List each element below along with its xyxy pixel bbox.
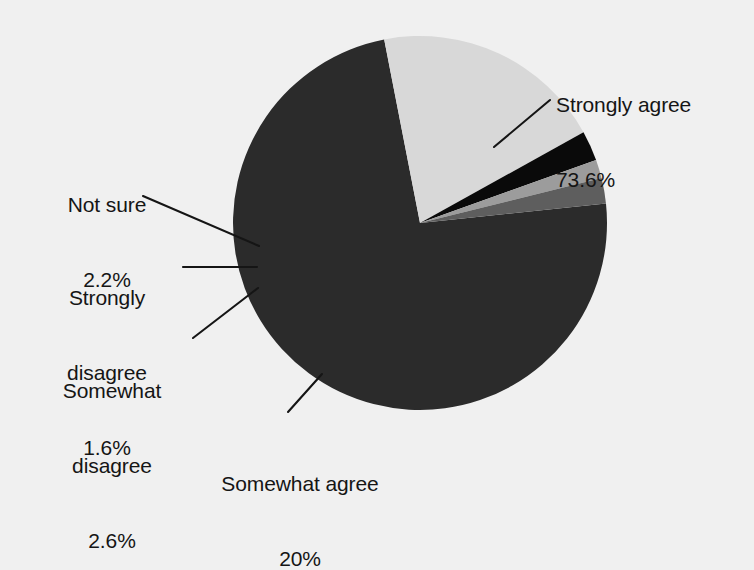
slice-label-somewhat-disagree-name-line1: Somewhat xyxy=(22,378,202,403)
slice-label-somewhat-disagree-value: 2.6% xyxy=(22,528,202,553)
slice-label-strongly-disagree-name-line1: Strongly xyxy=(22,285,192,310)
slice-label-somewhat-agree-value: 20% xyxy=(185,546,415,570)
leader-line-somewhat-agree xyxy=(288,374,322,412)
slice-label-not-sure-name: Not sure xyxy=(22,192,192,217)
slice-label-strongly-agree-name: Strongly agree xyxy=(556,92,736,117)
slice-label-somewhat-disagree: Somewhat disagree 2.6% xyxy=(22,328,202,570)
slice-label-somewhat-disagree-name-line2: disagree xyxy=(22,453,202,478)
slice-label-strongly-agree-value: 73.6% xyxy=(556,167,736,192)
pie-slices xyxy=(233,36,607,410)
slice-label-somewhat-agree: Somewhat agree 20% xyxy=(185,421,415,570)
slice-label-strongly-agree: Strongly agree 73.6% xyxy=(556,42,736,242)
slice-label-somewhat-agree-name: Somewhat agree xyxy=(185,471,415,496)
leader-line-somewhat-disagree xyxy=(193,288,258,338)
